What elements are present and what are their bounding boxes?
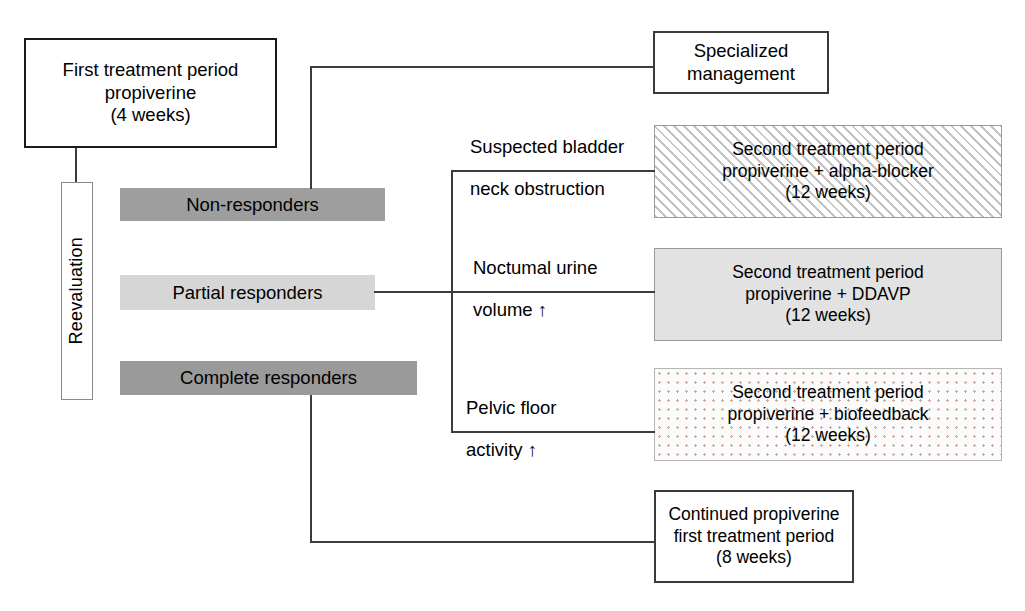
node-second-period-ddavp: Second treatment period propiverine + DD… [654,248,1002,341]
node-partial-responders: Partial responders [120,275,375,310]
node-complete-responders-label: Complete responders [180,367,357,389]
node-reevaluation: Reevaluation [61,182,93,400]
label-criterion-2-line1: Noctumal urine [473,259,597,278]
node-reevaluation-label: Reevaluation [66,237,88,344]
node-second-period-alpha-blocker-label: Second treatment period propiverine + al… [720,139,936,203]
label-criterion-1-line1: Suspected bladder [470,138,624,157]
label-criterion-3-line2: activity ↑ [466,441,556,460]
connector-nonresponders-vertical [310,66,312,189]
node-second-period-alpha-blocker: Second treatment period propiverine + al… [654,125,1002,218]
flowchart-canvas: First treatment period propiverine (4 we… [0,0,1025,611]
label-criterion-nocturnal-urine-volume: Noctumal urine volume ↑ [473,259,597,319]
connector-completeresponders-to-continued [310,541,655,543]
label-criterion-bladder-neck-obstruction: Suspected bladder neck obstruction [470,138,624,198]
node-second-period-biofeedback: Second treatment period propiverine + bi… [654,368,1002,461]
node-non-responders-label: Non-responders [186,194,319,216]
node-second-period-biofeedback-label: Second treatment period propiverine + bi… [726,382,931,446]
node-specialized-management-label: Specialized management [687,40,795,85]
connector-partial-spine [451,170,453,433]
node-continued-propiverine: Continued propiverine first treatment pe… [654,490,854,583]
node-complete-responders: Complete responders [120,361,417,395]
node-first-treatment-period: First treatment period propiverine (4 we… [24,38,277,148]
node-second-period-ddavp-label: Second treatment period propiverine + DD… [730,262,926,326]
connector-nonresponders-to-specialized [310,66,654,68]
node-continued-propiverine-label: Continued propiverine first treatment pe… [668,504,839,568]
node-non-responders: Non-responders [120,188,385,221]
connector-first-to-reevaluation [75,148,77,182]
label-criterion-1-line2: neck obstruction [470,180,624,199]
label-criterion-2-line2: volume ↑ [473,301,597,320]
node-specialized-management: Specialized management [653,31,829,94]
node-first-treatment-period-label: First treatment period propiverine (4 we… [63,59,239,127]
label-criterion-3-line1: Pelvic floor [466,399,556,418]
label-criterion-pelvic-floor-activity: Pelvic floor activity ↑ [466,399,556,459]
node-partial-responders-label: Partial responders [172,282,322,304]
connector-completeresponders-vertical [310,395,312,543]
